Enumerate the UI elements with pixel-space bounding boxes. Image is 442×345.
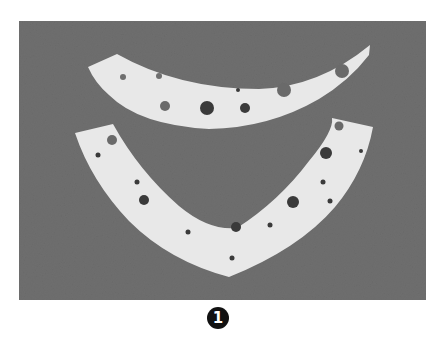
photo-two-perforated-strips <box>19 21 426 300</box>
perforation-hole <box>107 135 117 145</box>
perforation-hole <box>287 196 299 208</box>
edge-notch <box>156 73 162 79</box>
strips-illustration <box>19 21 426 300</box>
perforation-hole <box>277 83 291 97</box>
perforation-hole <box>96 153 101 158</box>
perforation-hole <box>200 101 214 115</box>
perforation-hole <box>231 222 241 232</box>
perforation-hole <box>240 103 250 113</box>
perforation-hole <box>335 122 344 131</box>
perforation-hole <box>268 223 273 228</box>
edge-notch <box>120 74 126 80</box>
perforation-hole <box>160 101 170 111</box>
perforation-hole <box>230 256 235 261</box>
perforation-hole <box>321 180 326 185</box>
perforation-hole <box>328 199 333 204</box>
perforation-hole <box>135 180 140 185</box>
perforation-hole <box>186 230 191 235</box>
perforation-hole <box>320 147 332 159</box>
perforation-hole <box>236 88 240 92</box>
perforation-hole <box>335 64 349 78</box>
perforation-hole <box>139 195 149 205</box>
perforation-hole <box>359 149 363 153</box>
figure-number-badge: 1 <box>207 307 229 329</box>
